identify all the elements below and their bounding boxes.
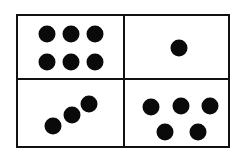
- dot-top-left: [63, 26, 80, 43]
- dot-top-right: [171, 40, 188, 57]
- dot-bottom-left: [45, 118, 62, 135]
- dot-bottom-right: [202, 98, 219, 115]
- dot-bottom-right: [190, 124, 207, 141]
- dot-top-left: [39, 26, 56, 43]
- dot-top-left: [63, 54, 80, 71]
- dot-top-left: [87, 26, 104, 43]
- dot-bottom-right: [173, 98, 190, 115]
- vertical-divider: [123, 14, 125, 148]
- dot-bottom-left: [81, 96, 98, 113]
- dot-top-left: [39, 54, 56, 71]
- dot-bottom-left: [64, 107, 81, 124]
- dot-bottom-right: [143, 99, 160, 116]
- horizontal-divider: [16, 78, 230, 80]
- dot-bottom-right: [157, 124, 174, 141]
- dot-top-left: [87, 54, 104, 71]
